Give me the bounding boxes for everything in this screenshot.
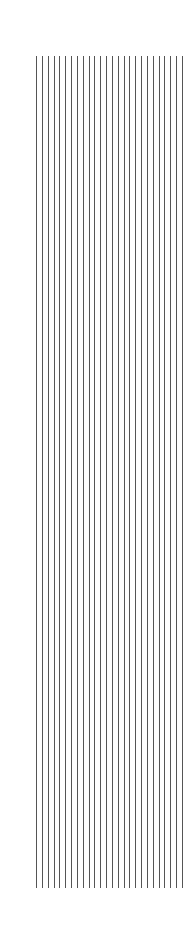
vertical-line [135,56,136,888]
vertical-line [77,56,78,888]
vertical-line [100,56,101,888]
vertical-line [106,56,107,888]
vertical-line [71,56,72,888]
vertical-line [54,56,55,888]
vertical-line [89,56,90,888]
vertical-line [118,56,119,888]
vertical-line [83,56,84,888]
vertical-line [147,56,148,888]
vertical-line [124,56,125,888]
vertical-line [48,56,49,888]
vertical-line [164,56,165,888]
vertical-line [129,56,130,888]
vertical-line [59,56,60,888]
vertical-line [112,56,113,888]
vertical-line [141,56,142,888]
vertical-line [176,56,177,888]
vertical-line [182,56,183,888]
vertical-line [170,56,171,888]
vertical-line [65,56,66,888]
vertical-line [36,56,37,888]
vertical-line [153,56,154,888]
vertical-line-pattern [0,56,186,888]
vertical-line [42,56,43,888]
vertical-line [94,56,95,888]
vertical-line [159,56,160,888]
